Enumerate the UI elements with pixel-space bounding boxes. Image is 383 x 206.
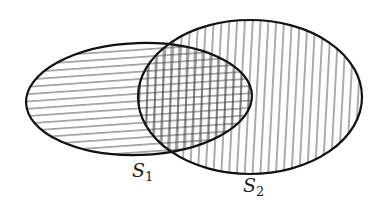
venn-diagram: S1 S2 (0, 0, 383, 206)
label-s1: S1 (132, 159, 153, 184)
label-s1-sub: 1 (145, 169, 153, 184)
label-s1-main: S (132, 159, 145, 181)
label-s2: S2 (243, 174, 264, 199)
label-s2-sub: 2 (256, 184, 264, 199)
label-s2-main: S (243, 174, 256, 196)
